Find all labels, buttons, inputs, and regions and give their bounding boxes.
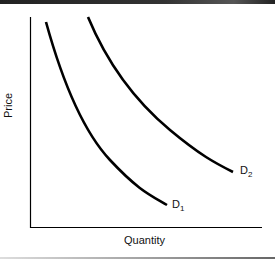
demand-curve-d1 (46, 22, 167, 205)
label-d2: D2 (240, 164, 252, 179)
demand-curve-d2 (88, 17, 233, 172)
label-d1: D1 (172, 198, 184, 213)
x-axis-label: Quantity (124, 234, 165, 246)
chart-plot (0, 0, 275, 259)
y-axis-label: Price (2, 93, 14, 118)
